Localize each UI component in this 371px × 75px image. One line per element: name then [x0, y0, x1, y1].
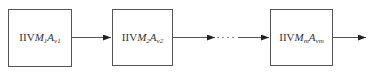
block-2: IIVM2Av2 [112, 9, 173, 66]
block-1: IIVM1Av1 [8, 9, 72, 67]
block-2-label: IIVM2Av2 [122, 31, 163, 45]
block-m-label: IIVMmAvm [279, 31, 323, 45]
block-1-label: IIVM1Av1 [19, 31, 60, 45]
block-m: IIVMmAvm [270, 9, 333, 66]
